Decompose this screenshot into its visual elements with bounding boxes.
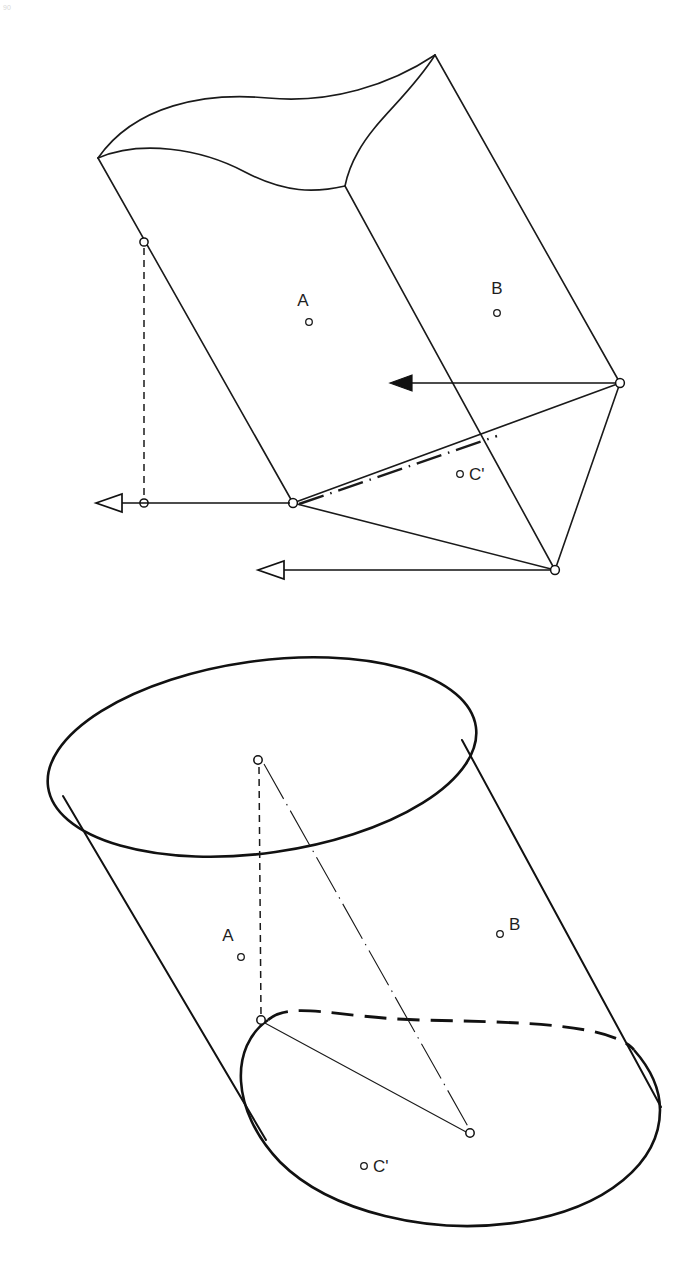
cylinder-point-b[interactable] <box>497 931 504 938</box>
cylinder-node-bottom-center[interactable] <box>466 1129 474 1137</box>
prism-label-a: A <box>297 291 309 310</box>
prism-right-face-top-edge <box>435 55 620 383</box>
cylinder-right-generatrix <box>462 740 661 1107</box>
drawing-page: 90 <box>0 0 699 1262</box>
prism-arrow-upper-right[interactable] <box>390 375 616 391</box>
prism-base-edge-to-right-node <box>293 383 620 503</box>
prism-label-b: B <box>491 279 502 298</box>
page-corner-mark: 90 <box>3 4 11 11</box>
prism-right-face-lower-edge <box>555 383 620 570</box>
prism-middle-ridge <box>345 186 555 570</box>
cylinder-bottom-ellipse-rear-arc <box>268 1011 634 1050</box>
prism-base-hidden-diagonal <box>299 436 497 504</box>
cylinder-axis-dash-dot <box>264 764 470 1130</box>
cylinder-label-b: B <box>509 915 520 934</box>
prism-arrow-lower-right[interactable] <box>258 561 551 579</box>
cylinder-label-a: A <box>222 926 234 945</box>
prism-base-edge-to-bottom-right <box>293 503 555 570</box>
prism-node-right[interactable] <box>616 379 625 388</box>
cylinder-node-top-center[interactable] <box>254 756 262 764</box>
prism-point-c-prime[interactable] <box>457 471 464 478</box>
figure-canvas: 90 <box>0 0 699 1262</box>
cylinder-node-mid[interactable] <box>257 1016 265 1024</box>
cylinder-label-c-prime: C' <box>373 1157 389 1176</box>
prism-node-left-edge[interactable] <box>140 238 148 246</box>
prism-left-face-left-edge <box>98 158 293 503</box>
figure-top-prism: A B C' <box>96 55 624 579</box>
prism-label-c-prime: C' <box>469 465 485 484</box>
cylinder-point-c-prime[interactable] <box>361 1163 368 1170</box>
prism-point-b[interactable] <box>494 310 501 317</box>
cylinder-base-connector <box>263 1022 468 1133</box>
cylinder-interior-dashed-height <box>259 767 261 1016</box>
cylinder-left-generatrix <box>63 796 266 1140</box>
figure-bottom-cylinder: A B C' <box>35 632 661 1226</box>
prism-back-top-curve <box>98 55 435 158</box>
cylinder-top-ellipse <box>35 632 490 882</box>
prism-arrow-lower-left[interactable] <box>96 494 290 512</box>
prism-front-top-curve <box>98 148 345 190</box>
cylinder-point-a[interactable] <box>238 954 245 961</box>
prism-point-a[interactable] <box>306 319 313 326</box>
prism-middle-ridge-top-curve <box>345 55 435 186</box>
prism-node-bottom-right[interactable] <box>551 566 560 575</box>
